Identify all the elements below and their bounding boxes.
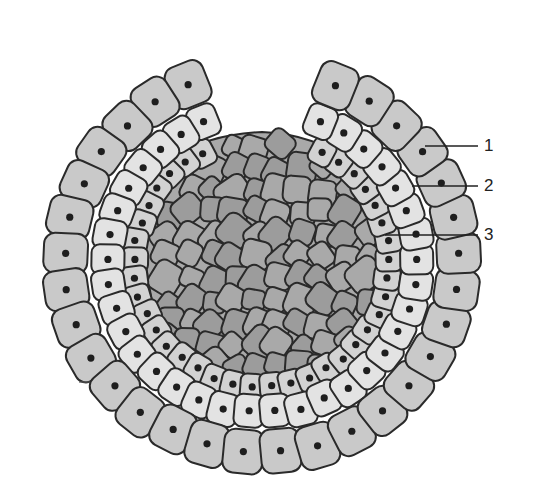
nucleus-icon — [453, 286, 460, 293]
nucleus-icon — [376, 311, 383, 318]
nucleus-icon — [321, 394, 328, 401]
nucleus-icon — [362, 186, 369, 193]
nucleus-icon — [66, 214, 73, 221]
nucleus-icon — [249, 383, 256, 390]
nucleus-icon — [157, 146, 164, 153]
nucleus-icon — [134, 293, 141, 300]
nucleus-icon — [406, 305, 413, 312]
nucleus-icon — [178, 131, 185, 138]
nucleus-icon — [153, 326, 160, 333]
nucleus-icon — [403, 207, 410, 214]
nucleus-icon — [106, 231, 113, 238]
nucleus-icon — [246, 407, 253, 414]
nucleus-icon — [419, 148, 426, 155]
nucleus-icon — [153, 368, 160, 375]
nucleus-icon — [366, 98, 373, 105]
nucleus-icon — [413, 256, 420, 263]
nucleus-icon — [319, 149, 326, 156]
nucleus-icon — [153, 184, 160, 191]
nucleus-icon — [378, 219, 385, 226]
nucleus-icon — [152, 98, 159, 105]
nucleus-icon — [195, 396, 202, 403]
label-3: 3 — [484, 225, 493, 244]
nucleus-icon — [385, 256, 392, 263]
nucleus-icon — [340, 355, 347, 362]
nucleus-icon — [81, 180, 88, 187]
nucleus-icon — [383, 274, 390, 281]
label-2: 2 — [484, 176, 493, 195]
embryo-diagram: 1 2 3 — [0, 0, 534, 479]
nucleus-icon — [62, 250, 69, 257]
nucleus-icon — [443, 321, 450, 328]
nucleus-icon — [113, 305, 120, 312]
nucleus-icon — [144, 310, 151, 317]
nucleus-icon — [351, 170, 358, 177]
nucleus-icon — [179, 354, 186, 361]
nucleus-icon — [105, 281, 112, 288]
nucleus-icon — [114, 207, 121, 214]
nucleus-icon — [277, 447, 284, 454]
nucleus-icon — [412, 231, 419, 238]
nucleus-icon — [166, 170, 173, 177]
nucleus-icon — [131, 275, 138, 282]
nucleus-icon — [317, 118, 324, 125]
nucleus-icon — [332, 82, 339, 89]
nucleus-icon — [240, 448, 247, 455]
nucleus-icon — [203, 440, 210, 447]
label-1: 1 — [484, 136, 493, 155]
nucleus-icon — [73, 321, 80, 328]
nucleus-icon — [394, 328, 401, 335]
nucleus-icon — [450, 214, 457, 221]
nucleus-icon — [271, 407, 278, 414]
nucleus-icon — [335, 159, 342, 166]
nucleus-icon — [131, 256, 138, 263]
nucleus-icon — [170, 426, 177, 433]
nucleus-icon — [211, 375, 218, 382]
nucleus-icon — [287, 379, 294, 386]
nucleus-icon — [199, 150, 206, 157]
nucleus-icon — [124, 122, 131, 129]
nucleus-icon — [268, 382, 275, 389]
nucleus-icon — [378, 163, 385, 170]
nucleus-icon — [412, 281, 419, 288]
nucleus-icon — [98, 148, 105, 155]
nucleus-icon — [173, 383, 180, 390]
nucleus-icon — [363, 367, 370, 374]
nucleus-icon — [185, 81, 192, 88]
nucleus-icon — [381, 349, 388, 356]
nucleus-icon — [322, 364, 329, 371]
nucleus-icon — [306, 374, 313, 381]
nucleus-icon — [393, 122, 400, 129]
nucleus-icon — [194, 364, 201, 371]
nucleus-icon — [104, 256, 111, 263]
nucleus-icon — [163, 343, 170, 350]
nucleus-icon — [200, 118, 207, 125]
nucleus-icon — [87, 354, 94, 361]
nucleus-icon — [372, 202, 379, 209]
nucleus-icon — [122, 328, 129, 335]
nucleus-icon — [352, 341, 359, 348]
nucleus-icon — [364, 326, 371, 333]
nucleus-icon — [131, 237, 138, 244]
nucleus-icon — [220, 405, 227, 412]
nucleus-icon — [314, 442, 321, 449]
nucleus-icon — [139, 219, 146, 226]
nucleus-icon — [134, 351, 141, 358]
nucleus-icon — [455, 250, 462, 257]
nucleus-icon — [382, 293, 389, 300]
nucleus-icon — [297, 406, 304, 413]
nucleus-icon — [385, 237, 392, 244]
nucleus-icon — [140, 164, 147, 171]
nucleus-icon — [137, 409, 144, 416]
nucleus-icon — [111, 382, 118, 389]
nucleus-icon — [125, 185, 132, 192]
nucleus-icon — [360, 145, 367, 152]
nucleus-icon — [345, 385, 352, 392]
nucleus-icon — [427, 353, 434, 360]
nucleus-icon — [379, 407, 386, 414]
nucleus-icon — [182, 158, 189, 165]
nucleus-icon — [63, 286, 70, 293]
nucleus-icon — [405, 382, 412, 389]
nucleus-icon — [229, 381, 236, 388]
nucleus-icon — [145, 202, 152, 209]
